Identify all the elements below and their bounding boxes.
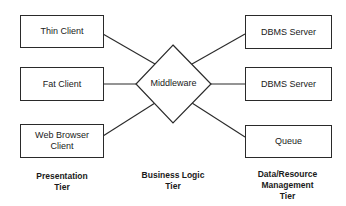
middleware-label: Middleware: [136, 78, 211, 88]
web-browser-client-label: Web Browser Client: [35, 130, 89, 152]
thin-client-node: Thin Client: [20, 15, 104, 48]
edge-web-browser-middleware: [103, 103, 155, 136]
edge-middleware-queue: [192, 103, 245, 137]
edge-thin-client-middleware: [103, 34, 155, 64]
business-logic-tier-label: Business Logic Tier: [128, 170, 218, 192]
dbms-server-2-node: DBMS Server: [245, 67, 332, 101]
queue-node: Queue: [245, 125, 332, 158]
data-resource-tier-label: Data/Resource Management Tier: [240, 169, 335, 202]
dbms-server-1-node: DBMS Server: [245, 15, 332, 49]
web-browser-client-node: Web Browser Client: [20, 124, 104, 158]
dbms-server-1-label: DBMS Server: [261, 27, 316, 38]
fat-client-label: Fat Client: [43, 79, 82, 90]
dbms-server-2-label: DBMS Server: [261, 79, 316, 90]
thin-client-label: Thin Client: [40, 26, 83, 37]
edge-middleware-dbms-1: [192, 34, 245, 64]
fat-client-node: Fat Client: [20, 67, 104, 101]
presentation-tier-label: Presentation Tier: [20, 171, 104, 193]
queue-label: Queue: [275, 136, 302, 147]
